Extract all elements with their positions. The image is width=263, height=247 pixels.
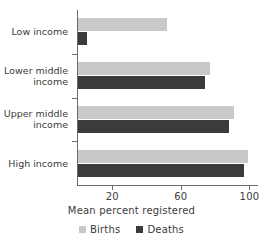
legend-swatch-icon <box>136 226 143 233</box>
bar-chart: 2060100 Low incomeLower middle incomeUpp… <box>0 0 263 247</box>
legend-item-deaths[interactable]: Deaths <box>136 224 184 235</box>
category-label-0: Low income <box>0 26 68 37</box>
x-tick-label: 20 <box>106 191 119 202</box>
x-tick-mark <box>181 186 182 190</box>
x-tick-label: 60 <box>174 191 187 202</box>
y-tick-mark <box>72 98 77 99</box>
bar-births-3 <box>78 150 248 163</box>
legend-item-births[interactable]: Births <box>79 224 120 235</box>
legend-swatch-icon <box>79 226 86 233</box>
bar-births-0 <box>78 18 167 31</box>
x-tick-label: 100 <box>240 191 260 202</box>
x-axis-line <box>77 185 258 186</box>
x-tick-mark <box>112 186 113 190</box>
category-label-1: Lower middle income <box>0 65 68 87</box>
x-tick-mark <box>249 186 250 190</box>
legend-label: Deaths <box>147 224 184 235</box>
legend-label: Births <box>90 224 120 235</box>
x-axis-title: Mean percent registered <box>0 205 263 216</box>
bar-births-1 <box>78 62 210 75</box>
bar-deaths-1 <box>78 76 205 89</box>
category-label-3: High income <box>0 158 68 169</box>
category-label-2: Upper middle income <box>0 108 68 130</box>
y-tick-mark <box>72 54 77 55</box>
bar-deaths-2 <box>78 120 229 133</box>
bar-births-2 <box>78 106 234 119</box>
y-tick-mark <box>72 141 77 142</box>
chart-legend: BirthsDeaths <box>0 224 263 235</box>
bar-deaths-3 <box>78 164 244 177</box>
bar-deaths-0 <box>78 32 87 45</box>
plot-area <box>78 10 258 185</box>
